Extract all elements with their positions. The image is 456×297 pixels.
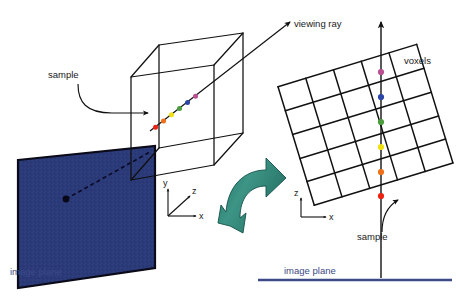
voxel-grid-line-h2 bbox=[285, 68, 424, 110]
voxel-grid-line-h3 bbox=[293, 92, 432, 134]
voxel-grid-line-v3 bbox=[333, 70, 369, 189]
sample-orange-icon bbox=[378, 169, 384, 175]
axis-x-label: x bbox=[199, 211, 204, 221]
pixel-point bbox=[63, 196, 70, 203]
cube-back-face bbox=[159, 33, 243, 148]
voxels-label: voxels bbox=[404, 55, 431, 66]
sample-red-icon bbox=[153, 125, 158, 130]
voxel-grid bbox=[278, 44, 453, 205]
sample-yellow-icon bbox=[378, 144, 384, 150]
sample-blue-icon bbox=[378, 94, 384, 100]
sample-label-left: sample bbox=[48, 69, 79, 80]
transition-arrow-shape bbox=[218, 158, 286, 233]
cube-edge-tl bbox=[131, 45, 159, 77]
sample-yellow-icon bbox=[169, 112, 174, 117]
axis-x-label: x bbox=[329, 212, 334, 222]
sample-blue-icon bbox=[185, 100, 190, 105]
sample-leader-left bbox=[78, 84, 148, 113]
image-plane-label-left: image plane bbox=[10, 266, 62, 277]
sample-orange-icon bbox=[161, 119, 166, 124]
sample-green-icon bbox=[177, 106, 182, 111]
axis-z-line bbox=[168, 196, 190, 216]
sample-red-icon bbox=[378, 193, 384, 199]
axis-y-label: y bbox=[163, 178, 168, 188]
voxel-grid-line-h4 bbox=[300, 116, 439, 158]
diagram-canvas: image plane viewing ray sa bbox=[0, 0, 456, 297]
sample-magenta-icon bbox=[193, 94, 198, 99]
axis-triad-left: y z x bbox=[163, 178, 204, 221]
voxel-grid-line-h1 bbox=[278, 44, 417, 86]
volume-rendering-diagram: image plane viewing ray sa bbox=[0, 0, 456, 297]
axis-z-label: z bbox=[192, 186, 197, 196]
transition-arrow bbox=[218, 158, 286, 233]
sample-leader-right bbox=[382, 200, 398, 232]
axis-z-label: z bbox=[294, 188, 299, 198]
sample-label-right: sample bbox=[357, 231, 388, 242]
sample-magenta-icon bbox=[378, 69, 384, 75]
voxel-grid-line-v5 bbox=[389, 53, 425, 172]
sample-green-icon bbox=[378, 119, 384, 125]
viewing-ray-label: viewing ray bbox=[294, 18, 342, 29]
image-plane-label-right: image plane bbox=[284, 265, 336, 276]
voxel-grid-line-v2 bbox=[306, 78, 342, 197]
voxel-grid-line-h5 bbox=[307, 139, 446, 181]
voxel-grid-line-h6 bbox=[314, 163, 453, 205]
cube-edge-tr bbox=[214, 33, 243, 65]
